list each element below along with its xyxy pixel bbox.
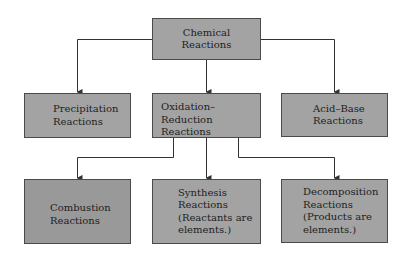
node-label: Synthesis Reactions (Reactants are eleme… (178, 187, 252, 237)
node-precipitation-reactions: Precipitation Reactions (24, 93, 131, 138)
edge-chemical-acidbase (261, 40, 335, 93)
node-oxidation-reduction-reactions: Oxidation–Reduction Reactions (152, 93, 261, 138)
edge-redox-decomposition (239, 138, 335, 178)
node-chemical-reactions: Chemical Reactions (152, 18, 261, 60)
node-label: Chemical Reactions (182, 27, 232, 52)
node-label: Acid–Base Reactions (313, 103, 365, 128)
edge-redox-combustion (78, 138, 174, 178)
node-label: Decomposition Reactions (Products are el… (303, 186, 378, 236)
edge-chemical-precipitation (78, 40, 153, 93)
node-label: Precipitation Reactions (53, 103, 118, 128)
node-combustion-reactions: Combustion Reactions (24, 179, 131, 244)
node-decomposition-reactions: Decomposition Reactions (Products are el… (281, 179, 388, 243)
node-label: Combustion Reactions (50, 202, 111, 227)
node-acid-base-reactions: Acid–Base Reactions (281, 93, 388, 137)
node-label: Oxidation–Reduction Reactions (161, 101, 260, 139)
node-synthesis-reactions: Synthesis Reactions (Reactants are eleme… (152, 179, 261, 244)
